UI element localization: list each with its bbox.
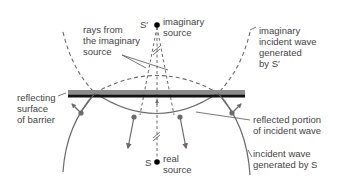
real-source-dot [154,159,160,165]
imaginary-source-symbol: S′ [140,19,148,30]
imaginary-source-label: imaginary source [163,16,204,38]
real-source-label: real source [163,153,192,175]
barrier-reflecting-line [68,95,245,98]
imaginary-source-dot [154,22,160,28]
imaginary-wave-label: imaginary incident wave generated by S′ [259,25,317,69]
real-source-symbol: S [145,157,151,168]
incident-wave-label: incident wave generated by S [253,148,317,170]
rays-label: rays from the imaginary source [83,24,140,57]
reflecting-surface-label: reflecting surface of barrier [17,92,56,125]
wave-reflection-diagram: S′ imaginary source rays from the imagin… [0,0,337,186]
reflected-portion-label: reflected portion of incident wave [253,114,321,136]
